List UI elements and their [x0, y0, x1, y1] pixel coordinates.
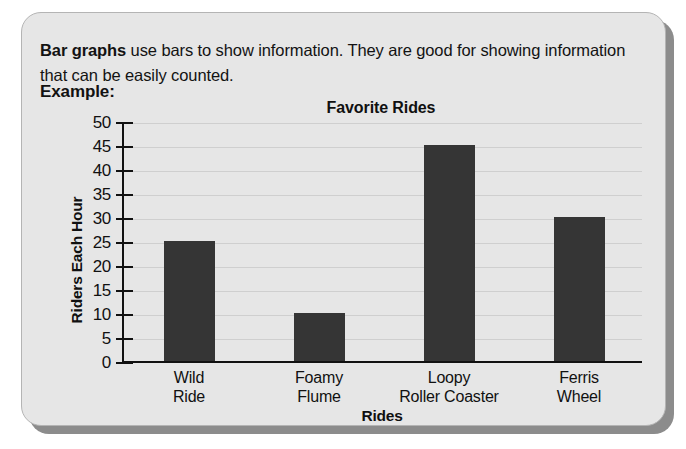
y-axis-tick-label: 35 — [93, 185, 111, 205]
bar — [294, 313, 345, 361]
bar — [424, 145, 475, 361]
x-axis-category-label: FerrisWheel — [557, 368, 601, 406]
y-axis-tick — [116, 362, 133, 365]
lesson-card: Bar graphs use bars to show information.… — [21, 12, 666, 426]
bar — [554, 217, 605, 361]
y-axis-tick — [116, 122, 133, 125]
bar-chart: Favorite Rides Riders Each Hour 50454035… — [36, 99, 652, 419]
y-axis-tick — [116, 242, 133, 245]
chart-title: Favorite Rides — [36, 99, 652, 117]
y-axis-tick — [116, 170, 133, 173]
lesson-intro-bold: Bar graphs — [40, 41, 126, 59]
plot-area: 50454035302520151050WildRideFoamyFlumeLo… — [122, 123, 642, 363]
y-axis-tick — [116, 218, 133, 221]
y-axis-tick-label: 5 — [102, 329, 111, 349]
x-axis-category-label: WildRide — [173, 368, 205, 406]
y-axis-tick-label: 25 — [93, 233, 111, 253]
y-axis-tick — [116, 314, 133, 317]
lesson-intro-rest: use bars to show information. They are g… — [40, 41, 625, 84]
y-axis-tick-label: 40 — [93, 161, 111, 181]
gridline — [124, 171, 642, 172]
y-axis-tick-label: 45 — [93, 137, 111, 157]
lesson-intro-text: Bar graphs use bars to show information.… — [40, 38, 640, 88]
gridline — [124, 195, 642, 196]
x-axis-title: Rides — [122, 407, 642, 425]
plot-wrap: 50454035302520151050WildRideFoamyFlumeLo… — [122, 123, 642, 363]
y-axis-tick — [116, 290, 133, 293]
y-axis-title: Riders Each Hour — [68, 165, 86, 355]
gridline — [124, 123, 642, 124]
gridline — [124, 147, 642, 148]
bar — [164, 241, 215, 361]
y-axis-tick-label: 15 — [93, 281, 111, 301]
y-axis-tick-label: 10 — [93, 305, 111, 325]
y-axis-tick-label: 20 — [93, 257, 111, 277]
y-axis-tick — [116, 146, 133, 149]
y-axis-tick-label: 0 — [102, 353, 111, 373]
screenshot-stage: Bar graphs use bars to show information.… — [0, 0, 686, 449]
y-axis-tick — [116, 266, 133, 269]
x-axis-category-label: FoamyFlume — [295, 368, 343, 406]
y-axis-tick-label: 50 — [93, 113, 111, 133]
y-axis-tick — [116, 194, 133, 197]
y-axis-tick — [116, 338, 133, 341]
x-axis-category-label: LoopyRoller Coaster — [399, 368, 498, 406]
y-axis-tick-label: 30 — [93, 209, 111, 229]
